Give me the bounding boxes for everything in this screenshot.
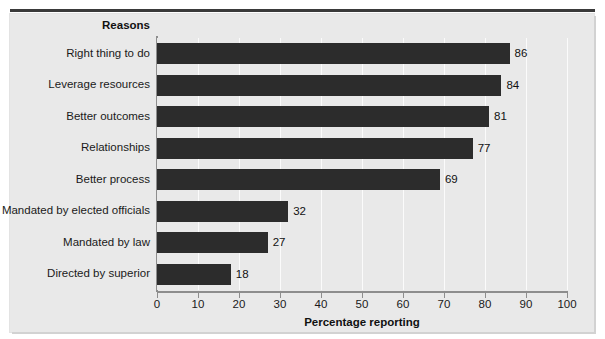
panel-shadow-bottom [12,332,596,334]
bar-row[interactable]: 84 [157,75,567,96]
bar-value-label: 77 [478,143,491,155]
bar-row[interactable]: 18 [157,264,567,285]
x-axis-title: Percentage reporting [157,316,567,328]
x-axis-tick-label: 70 [427,299,461,311]
bar-value-label: 27 [273,237,286,249]
category-label: Mandated by law [0,237,150,249]
category-label: Leverage resources [0,79,150,91]
category-label: Directed by superior [0,268,150,280]
bar-series: 8684817769322718 [157,38,567,290]
category-label: Better outcomes [0,111,150,123]
plot-area: 8684817769322718 [157,38,567,290]
clipped-caption [10,0,570,3]
reasons-column-header: Reasons [0,19,150,31]
x-axis-tick-label: 40 [304,299,338,311]
x-axis-tick-label: 90 [509,299,543,311]
bar[interactable] [157,169,440,190]
bar-row[interactable]: 69 [157,169,567,190]
bar-value-label: 32 [293,206,306,218]
category-label: Relationships [0,142,150,154]
bar-row[interactable]: 27 [157,232,567,253]
x-axis-tick-label: 30 [263,299,297,311]
category-label: Right thing to do [0,48,150,60]
bar-value-label: 18 [236,269,249,281]
x-axis-tick-label: 20 [222,299,256,311]
top-rule-divider [10,9,595,12]
x-axis-tick-label: 10 [181,299,215,311]
bar-row[interactable]: 77 [157,138,567,159]
bar-row[interactable]: 81 [157,106,567,127]
bar[interactable] [157,43,510,64]
x-axis-tick-label: 80 [468,299,502,311]
panel-shadow-right [594,16,596,332]
bar[interactable] [157,106,489,127]
bar[interactable] [157,75,501,96]
category-label: Mandated by elected officials [0,205,150,217]
bar[interactable] [157,264,231,285]
bar-value-label: 86 [515,48,528,60]
x-axis-tick-label: 0 [140,299,174,311]
bar-value-label: 81 [494,111,507,123]
category-axis-labels: Right thing to doLeverage resourcesBette… [0,38,150,290]
bar[interactable] [157,201,288,222]
x-axis-tick-label: 60 [386,299,420,311]
bar-row[interactable]: 86 [157,43,567,64]
bar-value-label: 84 [506,80,519,92]
x-axis-tick-label: 100 [550,299,584,311]
bar[interactable] [157,138,473,159]
category-label: Better process [0,174,150,186]
bar-value-label: 69 [445,174,458,186]
bar-row[interactable]: 32 [157,201,567,222]
bar[interactable] [157,232,268,253]
x-axis-tick-label: 50 [345,299,379,311]
chart-figure: Reasons Right thing to doLeverage resour… [0,0,605,339]
